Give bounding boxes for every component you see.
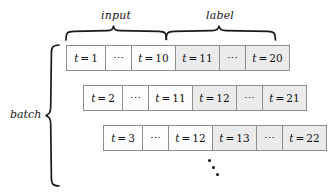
timestep-cell: t=12 bbox=[192, 85, 237, 111]
timestep-cell: t=20 bbox=[245, 45, 290, 71]
timestep-cell: t=22 bbox=[282, 125, 327, 151]
batch-row-3: t=3⋯t=12t=13⋯t=22 bbox=[103, 125, 327, 151]
timestep-cell: t=10 bbox=[131, 45, 176, 71]
timestep-ellipsis-cell: ⋯ bbox=[122, 85, 149, 111]
batch-label: batch bbox=[10, 108, 41, 121]
timestep-cell: t=1 bbox=[66, 45, 106, 71]
batch-row-2: t=2⋯t=11t=12⋯t=21 bbox=[83, 85, 307, 111]
timestep-ellipsis-cell: ⋯ bbox=[105, 45, 132, 71]
timestep-ellipsis-cell: ⋯ bbox=[256, 125, 283, 151]
timestep-ellipsis-cell: ⋯ bbox=[236, 85, 263, 111]
timestep-cell: t=21 bbox=[262, 85, 307, 111]
timestep-cell: t=3 bbox=[103, 125, 143, 151]
batch-row-1: t=1⋯t=10t=11⋯t=20 bbox=[66, 45, 290, 71]
timeseries-batching-diagram: input label batch t=1⋯t=10t=11⋯t=20t=2⋯t… bbox=[0, 0, 329, 193]
input-brace bbox=[60, 24, 175, 42]
vertical-ellipsis-icon bbox=[206, 158, 226, 182]
timestep-cell: t=12 bbox=[168, 125, 213, 151]
timestep-ellipsis-cell: ⋯ bbox=[142, 125, 169, 151]
timestep-cell: t=11 bbox=[148, 85, 193, 111]
label-brace bbox=[162, 24, 284, 42]
timestep-ellipsis-cell: ⋯ bbox=[219, 45, 246, 71]
input-group-label: input bbox=[66, 9, 166, 22]
label-group-label: label bbox=[168, 9, 272, 22]
batch-brace bbox=[44, 43, 62, 188]
timestep-cell: t=13 bbox=[212, 125, 257, 151]
timestep-cell: t=2 bbox=[83, 85, 123, 111]
timestep-cell: t=11 bbox=[175, 45, 220, 71]
